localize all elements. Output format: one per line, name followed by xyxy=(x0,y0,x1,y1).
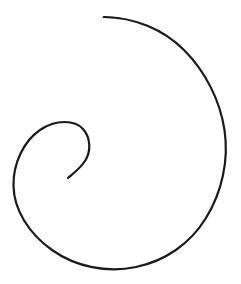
canvas-background xyxy=(0,0,241,284)
drawing-canvas xyxy=(0,0,241,284)
spiral-figure xyxy=(0,0,241,284)
